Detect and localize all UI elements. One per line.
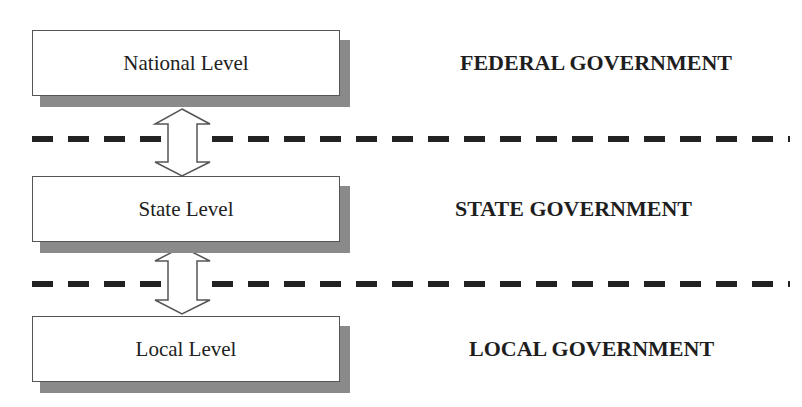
bidirectional-arrow-icon [155,247,210,314]
state-box-shadow-overlap [40,244,350,253]
federal-government-label: FEDERAL GOVERNMENT [460,50,732,76]
local-government-label: LOCAL GOVERNMENT [469,336,714,362]
state-government-label: STATE GOVERNMENT [455,196,692,222]
bidirectional-arrow-icon [155,109,210,176]
government-levels-diagram: National Level State Level Local Level F… [0,0,802,407]
